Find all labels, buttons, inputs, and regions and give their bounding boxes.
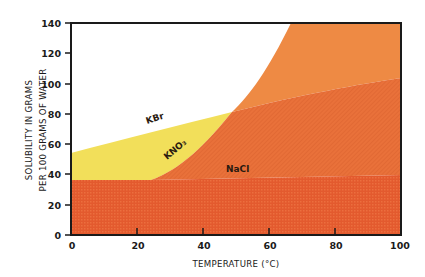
plot-area [71, 23, 401, 235]
y-tick-40: 40 [48, 169, 62, 180]
kbr-label: KBr [145, 111, 166, 126]
x-tick-40: 40 [197, 240, 211, 251]
y-tick-0: 0 [54, 230, 61, 241]
y-tick-20: 20 [48, 200, 62, 211]
y-tick-60: 60 [48, 139, 62, 150]
y-tick-140: 140 [41, 18, 61, 29]
x-tick-20: 20 [131, 240, 145, 251]
x-tick-0: 0 [69, 240, 76, 251]
y-tick-120: 120 [41, 48, 61, 59]
x-tick-60: 60 [263, 240, 277, 251]
nacl-label: NaCl [226, 164, 249, 174]
y-tick-80: 80 [48, 109, 62, 120]
y-axis-title-line1: SOLUBILITY IN GRAMS [24, 80, 34, 180]
x-tick-100: 100 [390, 240, 410, 251]
nacl-region [71, 175, 401, 235]
solubility-chart: 0 20 40 60 80 100 120 140 0 20 40 60 80 … [0, 0, 425, 277]
x-tick-labels: 0 20 40 60 80 100 [69, 240, 411, 251]
x-tick-80: 80 [329, 240, 343, 251]
x-axis-title: TEMPERATURE (°C) [191, 259, 279, 269]
y-axis-title-line2: PER 100 GRAMS OF WATER [38, 68, 48, 191]
